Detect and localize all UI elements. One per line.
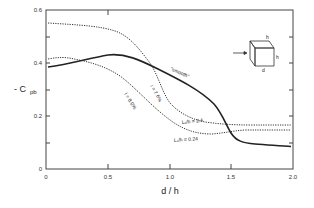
annotation-lx024: Lₓ/h = 0.24 [174,135,199,143]
svg-text:pb: pb [30,89,37,95]
annotation-i80: I = 8.0% [123,91,138,110]
series-smooth [48,55,291,147]
inset-label-h-top: h [266,34,269,40]
x-ticks [108,10,231,169]
y-ticks [46,37,293,143]
inset-label-d: d [262,67,265,73]
plot-frame [46,10,293,169]
x-tick-label: 1.5 [227,174,236,180]
x-tick-label: 0 [44,174,48,180]
x-tick-label: 0.5 [104,174,113,180]
x-tick-label: 1.0 [166,174,175,180]
y-tick-label: 0 [39,166,43,172]
y-tick-label: 0.4 [34,60,43,66]
inset-box-diagram [233,41,274,66]
x-tick-label: 2.0 [289,174,298,180]
y-tick-label: 0.6 [34,7,43,13]
x-axis-label: d / h [161,186,179,196]
y-axis-label: - C pb [14,84,37,95]
annotation-lx24: Lₓ/h = 2.4 [181,117,203,125]
inset-label-h-side: h [276,54,279,60]
svg-text:- C: - C [14,84,26,94]
chart: 0 0.5 1.0 1.5 2.0 0 0.2 0.4 0.6 d / h - … [0,0,314,208]
y-tick-label: 0.2 [34,113,43,119]
